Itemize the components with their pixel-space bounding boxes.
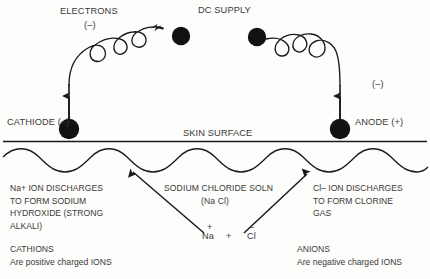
cathode-reaction-line4: ALKALI) <box>10 220 42 233</box>
electrons-label: ELECTRONS <box>60 5 118 18</box>
anions-description: Are negative charged IONS <box>297 256 402 269</box>
anode-electrode <box>330 119 350 139</box>
anode-label: ANODE (+) <box>355 116 403 129</box>
dc-supply-label: DC SUPPLY <box>198 4 251 17</box>
right-coil-wire <box>266 34 340 85</box>
anions-term: ANIONS <box>297 243 330 256</box>
skin-surface-label: SKIN SURFACE <box>183 127 252 140</box>
cathode-reaction-line3: HYDROXIDE (STRONG <box>10 207 103 220</box>
cathode-reaction-line2: TO FORM SODIUM <box>10 195 86 208</box>
sodium-ion-label: Na <box>202 231 214 241</box>
anode-reaction-line3: GAS <box>313 207 331 220</box>
ion-plus-separator: + <box>226 231 231 241</box>
diagram-canvas <box>0 0 430 279</box>
cathions-term: CATHIONS <box>10 243 54 256</box>
solution-formula-label: (Na Cl) <box>201 195 229 208</box>
anode-reaction-line1: Cl– ION DISCHARGES <box>313 182 403 195</box>
solution-name-label: SODIUM CHLORIDE SOLN <box>164 182 273 195</box>
cathode-label: CATHIODE (–) <box>7 116 70 129</box>
cathode-reaction-line1: Na+ ION DISCHARGES <box>10 182 103 195</box>
dc-supply-terminal-right <box>248 28 266 46</box>
electrons-charge-label: (–) <box>84 19 96 32</box>
dc-supply-terminal-left <box>172 27 190 45</box>
cathions-description: Are positive charged IONS <box>10 256 112 269</box>
chloride-ion-label: Cl <box>247 231 256 241</box>
iontophoresis-diagram: ELECTRONS (–) DC SUPPLY CATHIODE (–) ANO… <box>0 0 430 279</box>
anode-reaction-line2: TO FORM CLORINE <box>313 195 393 208</box>
left-coil-wire <box>69 24 163 85</box>
anode-wire-charge-label: (–) <box>372 78 384 91</box>
skin-wave-line <box>3 149 428 172</box>
